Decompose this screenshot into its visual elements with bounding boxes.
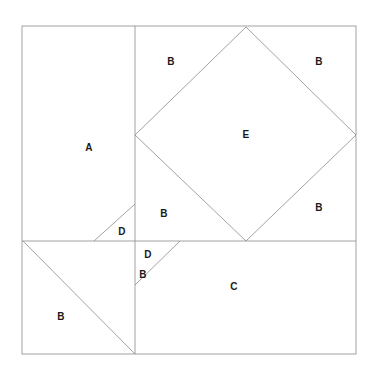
region-label-c: C <box>230 282 237 292</box>
region-label-b-mid-right: B <box>315 203 322 213</box>
region-label-b-top-left: B <box>167 57 174 67</box>
region-label-b-lower-mid: B <box>139 270 146 280</box>
region-label-d-upper: D <box>118 227 125 237</box>
region-label-b-bottom-left: B <box>57 312 64 322</box>
region-label-b-mid-left: B <box>160 209 167 219</box>
region-label-e: E <box>243 130 250 140</box>
triangle-d-upper-hypotenuse <box>94 204 135 241</box>
outer-square-outline <box>22 26 356 354</box>
region-label-b-top-right: B <box>315 57 322 67</box>
triangle-b-lower-left-hypotenuse <box>23 241 135 354</box>
geometry-figure: A B B E B B D D B C B <box>0 0 375 373</box>
region-label-a: A <box>85 143 92 153</box>
region-label-d-lower: D <box>144 250 151 260</box>
